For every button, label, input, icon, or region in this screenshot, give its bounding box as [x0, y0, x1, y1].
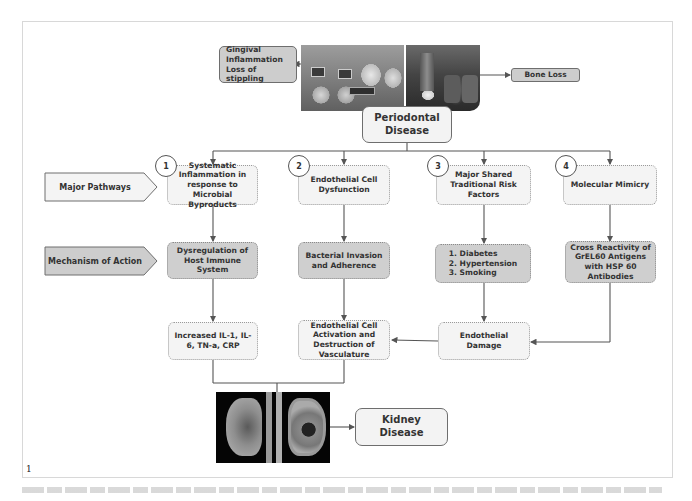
mechanism-3-node: 1. Diabetes 2. Hypertension 3. Smoking: [435, 244, 531, 283]
figure-number: 1: [26, 464, 32, 474]
major-pathways-label: Major Pathways: [44, 172, 146, 202]
mechanism-4-node: Cross Reactivity of GrEL60 Antigens with…: [565, 241, 656, 283]
gingival-line: Gingival: [226, 45, 292, 55]
mechanism-1-node: Dysregulation of Host Immune System: [167, 242, 258, 279]
pathway-3-number: 3: [427, 155, 449, 177]
pathway-1-number: 1: [155, 155, 177, 177]
mechanism-2-node: Bacterial Invasion and Adherence: [298, 242, 390, 279]
bone-loss-label: Bone Loss: [511, 68, 580, 82]
pathway-3-node: Major Shared Traditional Risk Factors: [436, 165, 531, 205]
kidney-illustration: [216, 392, 330, 463]
periodontal-line: Disease: [374, 125, 439, 138]
figure-caption-illegible: [22, 487, 662, 493]
pathway-4-number: 4: [555, 155, 577, 177]
endothelial-activation-node: Endothelial Cell Activation and Destruct…: [298, 320, 390, 360]
gingival-inflammation-label: Gingival Inflammation Loss of stippling: [219, 46, 297, 83]
risk-factor-item: 2. Hypertension: [449, 259, 517, 269]
endothelial-damage-node: Endothelial Damage: [438, 322, 530, 360]
pathway-2-node: Endothelial Cell Dysfunction: [298, 165, 390, 205]
risk-factor-item: 3. Smoking: [449, 268, 517, 278]
mechanism-of-action-label: Mechanism of Action: [44, 246, 146, 276]
dental-xray: [406, 45, 480, 111]
periodontal-line: Periodontal: [374, 112, 439, 125]
pathway-1-node: Systematic Inflammation in response to M…: [167, 165, 258, 205]
pathway-2-number: 2: [288, 155, 310, 177]
gingival-line: Inflammation: [226, 55, 292, 65]
gingival-line: Loss of stippling: [226, 65, 292, 84]
periodontal-disease-node: Periodontal Disease: [362, 106, 452, 143]
pathway-4-node: Molecular Mimicry: [563, 165, 657, 205]
kidney-disease-line: Disease: [380, 427, 424, 440]
kidney-disease-node: Kidney Disease: [355, 408, 448, 446]
risk-factor-item: 1. Diabetes: [449, 249, 517, 259]
intraoral-photo: [301, 45, 404, 111]
kidney-disease-line: Kidney: [380, 414, 424, 427]
cytokines-node: Increased IL-1, IL-6, TN-a, CRP: [168, 322, 258, 360]
